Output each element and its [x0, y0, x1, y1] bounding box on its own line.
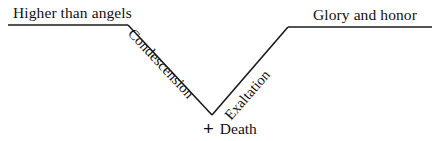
glory-and-honor-label: Glory and honor	[313, 7, 417, 23]
higher-than-angels-label: Higher than angels	[13, 5, 132, 21]
kenosis-diagram: Higher than angels Glory and honor Conde…	[0, 0, 438, 141]
cross-icon: +	[203, 119, 214, 138]
death-label: Death	[220, 120, 257, 137]
death-vertex-group: + Death	[203, 118, 257, 137]
